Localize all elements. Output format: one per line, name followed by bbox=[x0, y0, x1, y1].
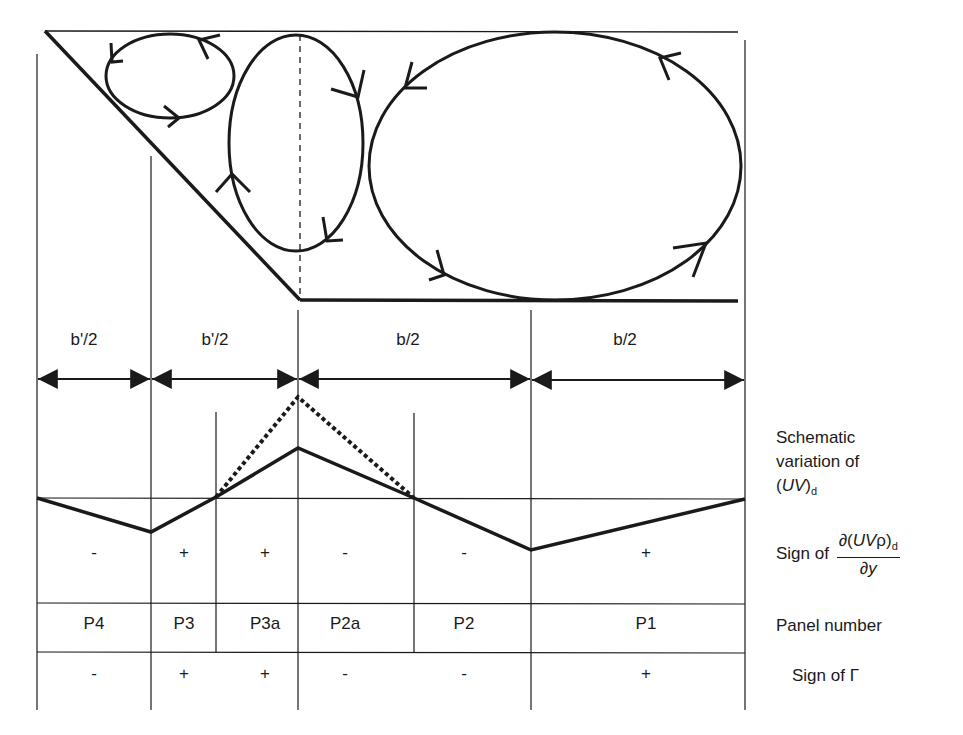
span-label-0: b'/2 bbox=[71, 330, 98, 350]
uv-variable: UV bbox=[782, 476, 806, 495]
derivative-sign-p2: - bbox=[461, 543, 467, 563]
derivative-sign-p3: + bbox=[179, 543, 189, 563]
row-label-derivative-sign: Sign of ∂(UVρ)d ∂y bbox=[776, 530, 900, 580]
uv-subscript: d bbox=[811, 485, 817, 497]
row-label-uv-line3: (UV)d bbox=[776, 474, 859, 503]
derivative-sign-p2a: - bbox=[342, 543, 348, 563]
wall-geometry bbox=[45, 31, 738, 301]
gamma-sign-p2a: - bbox=[342, 664, 348, 684]
span-label-1: b'/2 bbox=[202, 330, 229, 350]
flow-arrow-icons bbox=[111, 35, 706, 280]
panel-p1: P1 bbox=[636, 614, 657, 634]
grid-verticals bbox=[37, 40, 745, 710]
fraction-numerator: ∂(UVρ)d bbox=[837, 530, 900, 558]
derivative-sign-p3a: + bbox=[260, 543, 270, 563]
row-label-uv-variation: Schematic variation of (UV)d bbox=[776, 426, 859, 503]
panel-p4: P4 bbox=[84, 614, 105, 634]
row-label-panel-number: Panel number bbox=[776, 614, 882, 638]
row-label-uv-line1: Schematic bbox=[776, 426, 859, 450]
gamma-sign-p1: + bbox=[641, 664, 651, 684]
gamma-sign-p4: - bbox=[91, 664, 97, 684]
derivative-fraction: ∂(UVρ)d ∂y bbox=[837, 530, 900, 580]
gamma-sign-p2: - bbox=[461, 664, 467, 684]
small-vortex bbox=[106, 34, 234, 118]
span-arrows bbox=[38, 379, 744, 380]
vortices bbox=[106, 32, 741, 300]
panel-p3: P3 bbox=[174, 614, 195, 634]
panel-p3a: P3a bbox=[250, 614, 280, 634]
row-label-gamma-sign: Sign of Γ bbox=[792, 664, 859, 688]
derivative-sign-p4: - bbox=[91, 543, 97, 563]
span-label-2: b/2 bbox=[396, 330, 420, 350]
panel-p2: P2 bbox=[454, 614, 475, 634]
gamma-sign-p3a: + bbox=[260, 664, 270, 684]
gamma-sign-p3: + bbox=[179, 664, 189, 684]
row-label-uv-line2: variation of bbox=[776, 450, 859, 474]
panel-p2a: P2a bbox=[330, 614, 360, 634]
sign-of-text: Sign of bbox=[776, 544, 829, 563]
middle-vortex bbox=[229, 35, 363, 251]
large-vortex bbox=[369, 32, 741, 300]
span-label-3: b/2 bbox=[613, 330, 637, 350]
uv-variation-dotted bbox=[216, 397, 414, 498]
derivative-sign-p1: + bbox=[641, 543, 651, 563]
fraction-denominator: ∂y bbox=[837, 558, 900, 580]
